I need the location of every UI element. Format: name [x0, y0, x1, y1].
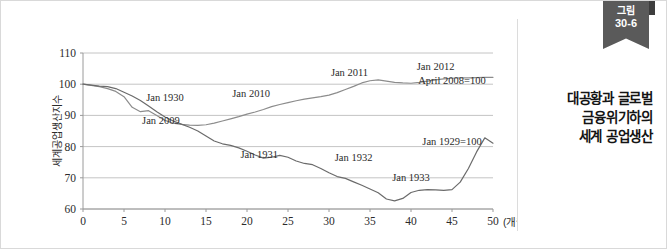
- annotation-label: Jan 1932: [335, 152, 373, 163]
- x-tick-label: 25: [282, 215, 294, 227]
- x-tick-label: 5: [121, 215, 127, 227]
- chart-panel: 60708090100110 05101520253035404550 Jan …: [1, 1, 517, 249]
- caption-line-3: 세계 공업생산: [525, 127, 653, 146]
- annotation-label: Jan 1929=100: [422, 136, 481, 147]
- annotation-label: Jan 2010: [232, 88, 270, 99]
- y-tick-label: 70: [65, 172, 77, 184]
- annotation-label: Jan 1933: [392, 172, 430, 183]
- caption-panel: 그림 30-6 대공황과 글로벌 금융위기하의 세계 공업생산: [518, 1, 667, 249]
- figure-container: 60708090100110 05101520253035404550 Jan …: [0, 0, 667, 249]
- annotation-label: Jan 2011: [331, 67, 368, 78]
- y-axis-title: 세계공업생산지수: [51, 95, 63, 167]
- annotation-label: Jan 2009: [142, 115, 180, 126]
- x-tick-label: 35: [364, 215, 376, 227]
- x-tick-label: 30: [323, 215, 335, 227]
- ribbon-number: 30-6: [603, 18, 649, 30]
- ribbon-fold-icon: [649, 1, 655, 15]
- caption-line-2: 금융위기하의: [525, 108, 653, 127]
- annotation-label: Jan 1931: [240, 149, 278, 160]
- caption-line-1: 대공황과 글로벌: [525, 89, 653, 108]
- annotation-label: Jan 2012: [417, 61, 455, 72]
- annotation-label: Jan 1930: [146, 92, 184, 103]
- x-tick-label: 0: [80, 215, 86, 227]
- x-tick-labels: 05101520253035404550: [80, 209, 499, 227]
- annotation-label: April 2008=100: [418, 75, 485, 86]
- x-tick-label: 50: [487, 215, 499, 227]
- y-tick-label: 100: [59, 78, 77, 90]
- y-tick-label: 90: [65, 109, 77, 121]
- x-tick-label: 45: [446, 215, 458, 227]
- x-tick-label: 20: [241, 215, 253, 227]
- figure-caption: 대공황과 글로벌 금융위기하의 세계 공업생산: [525, 89, 653, 146]
- ribbon-label: 그림: [603, 6, 649, 17]
- x-tick-label: 40: [405, 215, 417, 227]
- y-tick-label: 60: [65, 203, 77, 215]
- y-tick-label: 80: [65, 141, 77, 153]
- x-tick-label: 15: [200, 215, 212, 227]
- y-tick-label: 110: [59, 47, 76, 59]
- x-axis-title: (개월 수): [503, 216, 517, 228]
- x-tick-label: 10: [159, 215, 171, 227]
- industrial-production-line-chart: 60708090100110 05101520253035404550 Jan …: [1, 1, 517, 249]
- figure-number-ribbon: 그림 30-6: [603, 1, 649, 49]
